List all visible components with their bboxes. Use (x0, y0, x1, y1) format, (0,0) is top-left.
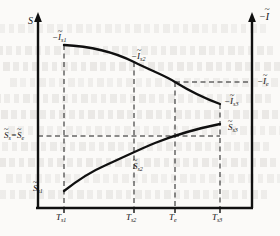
y-left-tick-label-ss-eq-se: Ss=Se (4, 131, 24, 141)
curve-label-minus-i-s3: −Is3 (224, 97, 238, 107)
x-tick-label-ts1: Ts1 (56, 213, 66, 223)
plot-canvas (0, 0, 280, 236)
x-tick-label-ts2: Ts2 (126, 213, 136, 223)
dashed-guide-lines (38, 45, 252, 208)
y-axis-left-title: S (28, 16, 33, 26)
x-tick-label-te: Te (169, 213, 177, 223)
y-axis-right-arrowhead (248, 12, 256, 22)
x-tick-label-ts3: Ts3 (212, 213, 222, 223)
curve-label-s-s1: Ss1 (33, 184, 43, 194)
axis-lines (34, 12, 256, 208)
curve-entropy (64, 124, 220, 191)
curve-label-minus-i-s1: −Is1 (52, 33, 66, 43)
curve-label-minus-i-s2: −Is2 (131, 52, 145, 62)
y-right-tick-label-minus-ie: −Ie (257, 77, 269, 87)
curve-label-s-s3: Ss3 (228, 123, 238, 133)
y-axis-right-title-symbol: I (266, 12, 269, 22)
y-axis-right-title: −I (259, 12, 269, 22)
curve-label-s-s2: Ss2 (133, 162, 143, 172)
figure-container: S −I −Is1 −Is2 −Is3 Ss1 Ss2 Ss3 Ss=Se −I… (0, 0, 280, 236)
y-axis-left-arrowhead (34, 12, 42, 22)
